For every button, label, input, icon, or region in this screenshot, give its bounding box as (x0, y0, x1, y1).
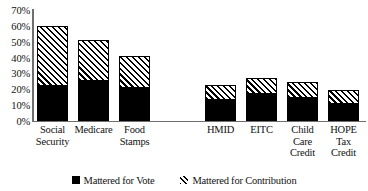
x-axis-category-label-line: Care (280, 136, 325, 148)
x-axis-category-label-line: Social (30, 124, 75, 136)
legend-item: Mattered for Contribution (180, 175, 296, 186)
bar-segment-mattered-for-contribution (287, 82, 318, 97)
x-axis-category-label-line: Credit (280, 147, 325, 159)
bar-social-security (37, 26, 68, 121)
bar-medicare (78, 40, 109, 121)
bar-hope-tax-credit (328, 90, 359, 121)
legend-item-label: Mattered for Vote (84, 175, 155, 186)
plot-area (0, 0, 368, 121)
bar-segment-mattered-for-vote (287, 97, 318, 121)
bar-child-care-credit (287, 82, 318, 121)
bar-eitc (246, 78, 277, 121)
x-axis-category-label-line: HMID (198, 124, 243, 136)
bar-segment-mattered-for-contribution (246, 78, 277, 93)
bar-segment-mattered-for-contribution (328, 90, 359, 103)
bar-segment-mattered-for-contribution (119, 56, 150, 87)
x-axis-category-label-line: HOPE (321, 124, 366, 136)
bar-food-stamps (119, 56, 150, 121)
legend-item-label: Mattered for Contribution (192, 175, 296, 186)
bar-segment-mattered-for-contribution (205, 85, 236, 99)
legend-swatch-hatch-icon (180, 176, 188, 184)
x-axis-category-label-line: Food (112, 124, 157, 136)
x-axis-category-label-line: Child (280, 124, 325, 136)
bar-chart: 0%10%20%30%40%50%60%70% Mattered for Vot… (0, 0, 368, 191)
x-axis-category-label-line: Medicare (71, 124, 116, 136)
x-axis-category-label-line: EITC (239, 124, 284, 136)
x-axis-category-label-line: Credit (321, 147, 366, 159)
bar-segment-mattered-for-vote (328, 103, 359, 121)
x-axis-category-label: HMID (198, 124, 243, 136)
bar-segment-mattered-for-vote (246, 93, 277, 121)
x-axis-category-label-line: Stamps (112, 136, 157, 148)
bar-segment-mattered-for-vote (78, 80, 109, 121)
chart-legend: Mattered for VoteMattered for Contributi… (0, 172, 368, 188)
x-axis-category-label: HOPETaxCredit (321, 124, 366, 159)
legend-swatch-solid-icon (72, 176, 80, 184)
bar-segment-mattered-for-contribution (78, 40, 109, 80)
x-axis-category-label-line: Tax (321, 136, 366, 148)
bar-segment-mattered-for-vote (37, 85, 68, 121)
x-axis-category-label: EITC (239, 124, 284, 136)
bar-segment-mattered-for-vote (205, 99, 236, 121)
x-axis-category-label: ChildCareCredit (280, 124, 325, 159)
x-axis-category-label: FoodStamps (112, 124, 157, 147)
bar-segment-mattered-for-contribution (37, 26, 68, 85)
bar-hmid (205, 85, 236, 121)
bar-segment-mattered-for-vote (119, 87, 150, 121)
legend-item: Mattered for Vote (72, 175, 155, 186)
x-axis-category-label-line: Security (30, 136, 75, 148)
x-axis-category-label: SocialSecurity (30, 124, 75, 147)
x-axis-category-label: Medicare (71, 124, 116, 136)
